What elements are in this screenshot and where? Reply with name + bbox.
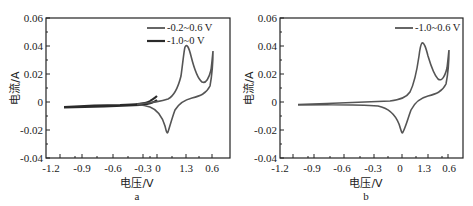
y-tick-label: -0.04 <box>20 152 43 164</box>
x-tick-label: 1.3 <box>417 162 431 174</box>
legend-a: -0.2~0.6 V -1.0~0 V <box>147 22 213 46</box>
x-tick-label: 0 <box>155 162 161 174</box>
series-line <box>298 43 449 133</box>
y-tick-label: 0.02 <box>258 68 277 80</box>
x-ticks-a <box>60 154 212 158</box>
y-tick-label: 0.06 <box>258 12 278 24</box>
x-tick-label: -0.9 <box>303 162 321 174</box>
y-axis-label: 电流/A <box>242 71 256 105</box>
chart-panel-a: 0.06 0.04 0.02 0 -0.02 -0.04 -1.2 -0.9 -… <box>8 12 230 202</box>
y-tick-label: 0 <box>38 96 44 108</box>
y-tick-label: 0.04 <box>24 40 44 52</box>
y-tick-label: 0.04 <box>258 40 278 52</box>
x-tick-label: -0.6 <box>333 162 351 174</box>
x-axis-label: 电压/V <box>120 177 154 190</box>
x-tick-label: 0 <box>397 162 403 174</box>
x-tick-label: -1.2 <box>42 162 59 174</box>
y-tick-label: -0.02 <box>254 124 277 136</box>
legend-label: -0.2~0.6 V <box>167 22 213 33</box>
plot-frame-b <box>280 18 463 158</box>
x-tick-label: 0.6 <box>442 162 456 174</box>
x-axis-label: 电压/V <box>349 177 383 190</box>
x-tick-label: -1.2 <box>271 162 288 174</box>
legend-b: -1.0~0.6 V <box>395 22 461 33</box>
y-tick-label: -0.02 <box>20 124 43 136</box>
y-tick-label: 0.02 <box>24 68 43 80</box>
series-line <box>137 46 213 133</box>
x-tick-label: -0.9 <box>73 162 91 174</box>
x-tick-label: -0.6 <box>104 162 122 174</box>
x-tick-label: 1.3 <box>179 162 193 174</box>
x-tick-label: -0.3 <box>134 162 152 174</box>
legend-label: -1.0~0.6 V <box>415 22 461 33</box>
y-tick-label: 0.06 <box>24 12 44 24</box>
y-ticks-b <box>280 18 284 158</box>
legend-label: -1.0~0 V <box>167 35 205 46</box>
panel-label-a: a <box>135 190 140 202</box>
chart-panel-b: 0.06 0.04 0.02 0 -0.02 -0.04 -1.2 -0.9 -… <box>242 12 463 202</box>
x-ticks-b <box>293 154 448 158</box>
x-tick-label: 0.6 <box>205 162 219 174</box>
y-tick-label: 0 <box>272 96 278 108</box>
y-axis-label: 电流/A <box>8 71 22 105</box>
panel-label-b: b <box>363 190 369 202</box>
figure: 0.06 0.04 0.02 0 -0.02 -0.04 -1.2 -0.9 -… <box>0 0 473 206</box>
x-tick-label: -0.3 <box>364 162 382 174</box>
